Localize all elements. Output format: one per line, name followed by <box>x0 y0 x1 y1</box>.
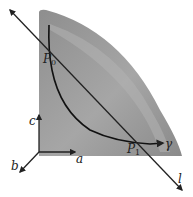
curve-gamma-label: γ <box>165 137 173 151</box>
diagram-canvas: P0 P1 γ l c a b <box>0 0 193 197</box>
axis-b <box>20 152 39 172</box>
line-l-label: l <box>178 172 182 186</box>
axis-b-label: b <box>11 159 19 173</box>
axis-a-label: a <box>76 152 83 166</box>
axis-c-label: c <box>29 114 36 128</box>
